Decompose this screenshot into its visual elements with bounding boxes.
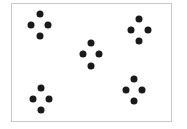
dot xyxy=(38,85,45,92)
dot xyxy=(30,96,37,103)
dot xyxy=(88,63,95,70)
dot xyxy=(37,33,44,40)
dot xyxy=(131,98,138,105)
dot xyxy=(139,87,146,94)
dot xyxy=(128,27,135,34)
dot xyxy=(46,96,53,103)
dot xyxy=(123,87,130,94)
dot xyxy=(28,22,35,29)
dot xyxy=(80,51,87,58)
dot xyxy=(38,107,45,114)
dot xyxy=(136,38,143,45)
dot xyxy=(37,11,44,18)
dot xyxy=(88,40,95,47)
dot xyxy=(145,27,152,34)
dot xyxy=(96,51,103,58)
dot xyxy=(45,22,52,29)
dot xyxy=(136,16,143,23)
dot xyxy=(131,76,138,83)
